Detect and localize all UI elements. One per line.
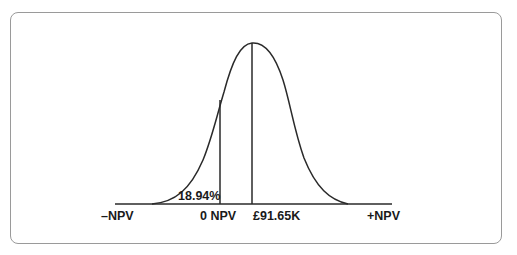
mean-npv-label: £91.65K — [253, 210, 300, 223]
normal-curve — [152, 43, 348, 204]
zero-npv-label: 0 NPV — [200, 210, 236, 223]
probability-annotation: 18.94% — [178, 190, 220, 203]
x-axis-right-label: +NPV — [367, 210, 400, 223]
x-axis-left-label: –NPV — [101, 210, 134, 223]
